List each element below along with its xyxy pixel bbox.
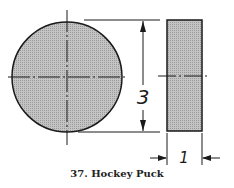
diameter-label: 3 [137,85,150,109]
side-view [158,20,210,131]
hockey-puck-drawing: 3 1 [0,0,234,188]
front-view [8,10,128,145]
thickness-label: 1 [179,149,189,167]
figure-caption: 37. Hockey Puck [0,168,234,179]
